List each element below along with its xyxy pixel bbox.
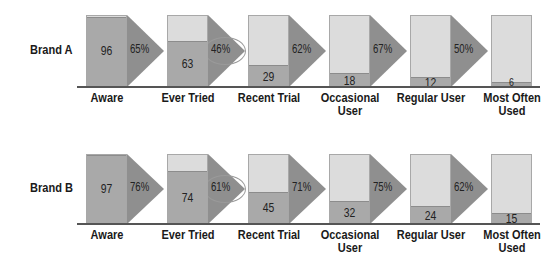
stage-label-line: Recent Trial [229, 229, 308, 242]
stage-value: 32 [333, 205, 366, 220]
stage-label: Ever Tried [148, 92, 227, 105]
stage-label: Aware [67, 229, 146, 242]
stage-label-line: Ever Tried [148, 229, 227, 242]
stage-column: 97 [86, 154, 127, 224]
stage-label-line: User [310, 105, 389, 118]
stage-column: 74 [167, 154, 208, 224]
conversion-rate: 62% [454, 180, 473, 194]
conversion-rate: 65% [130, 42, 149, 56]
stage-column: 63 [167, 15, 208, 87]
stage-column: 45 [248, 154, 289, 224]
stage-label: Regular User [391, 229, 470, 242]
conversion-rate: 62% [292, 42, 311, 56]
stage-label: OccasionalUser [310, 229, 389, 255]
stage-label: Recent Trial [229, 229, 308, 242]
stage-label-line: Regular User [391, 92, 470, 105]
stage-box [167, 154, 208, 224]
stage-label: Most OftenUsed [472, 229, 551, 255]
conversion-rate: 75% [373, 180, 392, 194]
stage-label: Ever Tried [148, 229, 227, 242]
stage-label-line: User [310, 242, 389, 255]
stage-label-line: Used [472, 242, 551, 255]
stage-label: OccasionalUser [310, 92, 389, 118]
stage-label-line: Used [472, 105, 551, 118]
baseline [77, 86, 540, 88]
stage-value: 97 [90, 181, 123, 196]
stage-value: 45 [252, 200, 285, 215]
stage-label-line: Aware [67, 92, 146, 105]
stage-column: 12 [410, 15, 451, 87]
stage-label: Recent Trial [229, 92, 308, 105]
stage-column: 15 [491, 154, 532, 224]
stage-label-line: Ever Tried [148, 92, 227, 105]
stage-label: Regular User [391, 92, 470, 105]
stage-column: 18 [329, 15, 370, 87]
conversion-rate: 67% [373, 42, 392, 56]
stage-box [167, 15, 208, 87]
stage-label: Most OftenUsed [472, 92, 551, 118]
stage-column: 32 [329, 154, 370, 224]
stage-label-line: Recent Trial [229, 92, 308, 105]
highlight-ellipse [204, 37, 246, 65]
stage-column: 96 [86, 15, 127, 87]
baseline [77, 223, 540, 225]
stage-value: 29 [252, 69, 285, 84]
highlight-ellipse [204, 175, 246, 203]
conversion-rate: 71% [292, 180, 311, 194]
stage-label-line: Aware [67, 229, 146, 242]
stage-label-line: Regular User [391, 229, 470, 242]
stage-column: 6 [491, 15, 532, 87]
conversion-rate: 76% [130, 180, 149, 194]
stage-value: 63 [171, 56, 204, 71]
stage-value: 24 [414, 208, 447, 223]
conversion-rate: 50% [454, 42, 473, 56]
stage-column: 24 [410, 154, 451, 224]
brand-label: Brand B [30, 180, 73, 195]
stage-value: 96 [90, 43, 123, 58]
stage-label: Aware [67, 92, 146, 105]
brand-label: Brand A [30, 42, 73, 57]
stage-value: 74 [171, 190, 204, 205]
stage-column: 29 [248, 15, 289, 87]
